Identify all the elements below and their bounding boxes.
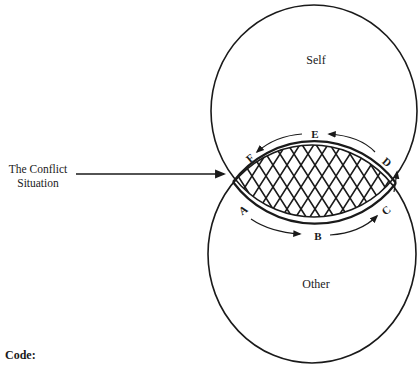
point-c-label: C [379, 203, 393, 217]
code-heading: Code: [5, 348, 36, 363]
conflict-label-line2: Situation [0, 176, 76, 190]
other-label: Other [302, 277, 329, 291]
point-a-label: A [236, 203, 249, 217]
conflict-situation-label: The Conflict Situation [0, 162, 76, 190]
self-label: Self [306, 53, 325, 67]
conflict-label-line1: The Conflict [0, 162, 76, 176]
point-b-label: B [314, 230, 322, 242]
conflict-overlap-region [208, 145, 416, 363]
point-e-label: E [311, 128, 318, 140]
arrow-b-to-c [330, 216, 377, 235]
